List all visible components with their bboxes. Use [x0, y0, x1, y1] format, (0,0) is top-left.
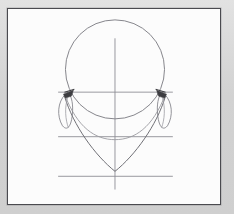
picture-frame [7, 8, 221, 205]
jawline-left-path [64, 96, 115, 171]
head-construction-drawing [8, 9, 220, 204]
screenshot-root [0, 0, 234, 214]
drawing-paper [8, 9, 220, 204]
jawline-right-path [115, 96, 166, 171]
